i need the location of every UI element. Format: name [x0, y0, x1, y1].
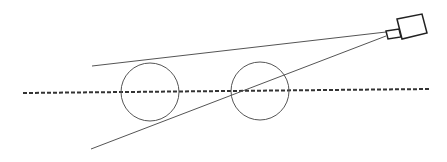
dashed-axis-line [23, 89, 430, 93]
camera-body [397, 14, 427, 39]
camera-lens [386, 29, 401, 39]
camera-view-diagram [0, 0, 447, 162]
lower-view-line [91, 36, 386, 149]
upper-view-line [92, 32, 386, 66]
camera-icon [386, 14, 427, 39]
